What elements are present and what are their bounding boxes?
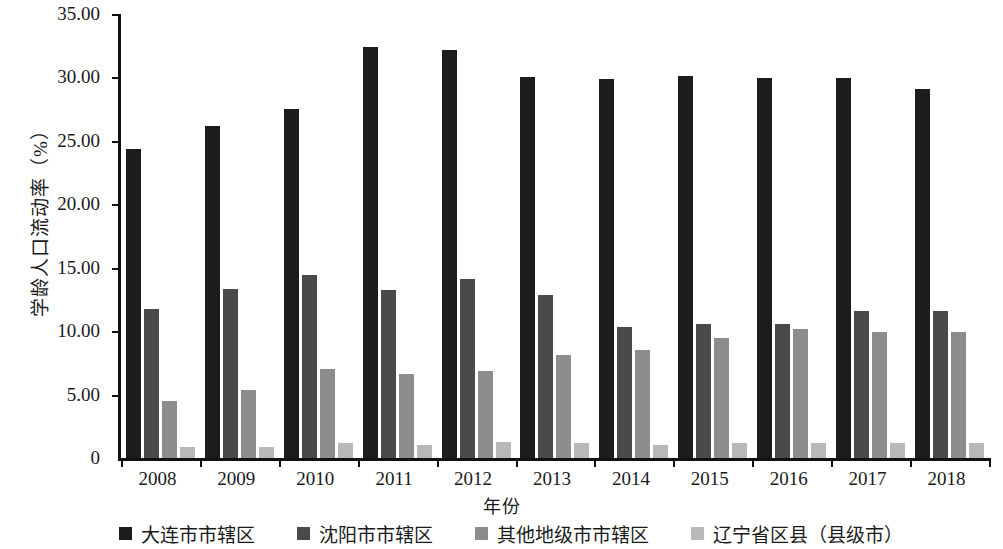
legend-swatch-icon [691, 527, 704, 540]
bar [162, 401, 177, 458]
bar [635, 350, 650, 458]
x-axis-tick-mark [121, 458, 123, 467]
x-axis-tick-mark [279, 458, 281, 467]
bar [951, 332, 966, 458]
x-axis-tick-mark [594, 458, 596, 467]
y-axis-tick-label: 10.00 [57, 320, 100, 342]
bar [933, 311, 948, 458]
y-axis-tick-label: 15.00 [57, 257, 100, 279]
y-axis-tick-mark [112, 268, 121, 270]
bar [520, 77, 535, 458]
y-axis-tick-labels: 05.0010.0015.0020.0025.0030.0035.00 [0, 0, 108, 470]
bar [872, 332, 887, 458]
x-axis-tick-mark [673, 458, 675, 467]
y-axis-tick-mark [112, 14, 121, 16]
bar [678, 76, 693, 458]
bar [757, 78, 772, 458]
bar [205, 126, 220, 458]
x-axis-tick-mark [200, 458, 202, 467]
legend-item[interactable]: 大连市市辖区 [119, 520, 255, 547]
bar [836, 78, 851, 458]
plot-area [118, 14, 989, 461]
y-axis-tick-mark [112, 204, 121, 206]
bar [854, 311, 869, 458]
x-axis-tick-mark [989, 458, 991, 467]
bar [538, 295, 553, 458]
x-axis-tick-label: 2011 [355, 468, 434, 490]
legend-label: 沈阳市市辖区 [319, 520, 433, 547]
bar [284, 109, 299, 458]
x-axis-tick-mark [752, 458, 754, 467]
x-axis-title: 年份 [0, 492, 1003, 518]
x-axis-tick-label: 2018 [907, 468, 986, 490]
x-axis-tick-mark [910, 458, 912, 467]
bar-group [437, 14, 516, 458]
bar [460, 279, 475, 458]
bar [381, 290, 396, 458]
bar [556, 355, 571, 458]
bar [223, 289, 238, 458]
y-axis-tick-label: 30.00 [57, 66, 100, 88]
bar [890, 443, 905, 458]
bar [574, 443, 589, 458]
bar [793, 329, 808, 458]
legend-item[interactable]: 沈阳市市辖区 [297, 520, 433, 547]
y-axis-tick-label: 25.00 [57, 130, 100, 152]
x-axis-tick-mark [831, 458, 833, 467]
x-axis-tick-label: 2016 [749, 468, 828, 490]
bar [302, 275, 317, 458]
legend-item[interactable]: 辽宁省区县（县级市） [691, 520, 903, 547]
bar [320, 369, 335, 458]
bar-groups [121, 14, 989, 458]
bar [775, 324, 790, 458]
y-axis-tick-mark [112, 331, 121, 333]
bar [714, 338, 729, 458]
bar [259, 447, 274, 458]
bar-group [200, 14, 279, 458]
bar-group [752, 14, 831, 458]
bar [617, 327, 632, 458]
bar-group [673, 14, 752, 458]
bar [811, 443, 826, 458]
x-axis-tick-label: 2014 [591, 468, 670, 490]
x-axis-tick-mark [437, 458, 439, 467]
bar-group [279, 14, 358, 458]
x-axis-tick-label: 2010 [276, 468, 355, 490]
bar [442, 50, 457, 458]
x-axis-tick-label: 2017 [828, 468, 907, 490]
bar-group [831, 14, 910, 458]
bar [126, 149, 141, 458]
bar [478, 371, 493, 458]
bar [338, 443, 353, 458]
bar-chart: 学龄人口流动率（%） 05.0010.0015.0020.0025.0030.0… [0, 0, 1003, 549]
y-axis-tick-label: 0 [91, 447, 101, 469]
x-axis-tick-label: 2008 [118, 468, 197, 490]
y-axis-tick-mark [112, 77, 121, 79]
y-axis-tick-label: 5.00 [67, 384, 100, 406]
bar [180, 447, 195, 458]
x-axis-tick-mark [358, 458, 360, 467]
x-axis-tick-label: 2012 [434, 468, 513, 490]
bar [496, 442, 511, 458]
legend-swatch-icon [475, 527, 488, 540]
bar [653, 445, 668, 458]
chart-legend: 大连市市辖区沈阳市市辖区其他地级市市辖区辽宁省区县（县级市） [0, 520, 1003, 547]
bar [399, 374, 414, 458]
legend-label: 大连市市辖区 [141, 520, 255, 547]
legend-swatch-icon [297, 527, 310, 540]
legend-label: 其他地级市市辖区 [497, 520, 649, 547]
bar [915, 89, 930, 458]
legend-label: 辽宁省区县（县级市） [713, 520, 903, 547]
x-axis-tick-labels: 2008200920102011201220132014201520162017… [118, 468, 986, 490]
y-axis-tick-label: 35.00 [57, 3, 100, 25]
bar [696, 324, 711, 458]
y-axis-tick-label: 20.00 [57, 193, 100, 215]
bar [599, 79, 614, 458]
bar-group [910, 14, 989, 458]
bar [417, 445, 432, 458]
y-axis-tick-mark [112, 395, 121, 397]
bar [144, 309, 159, 458]
legend-item[interactable]: 其他地级市市辖区 [475, 520, 649, 547]
x-axis-tick-mark [516, 458, 518, 467]
bar-group [594, 14, 673, 458]
